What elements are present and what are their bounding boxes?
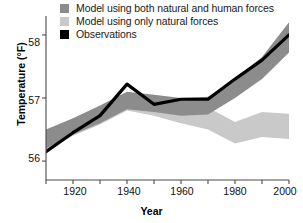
y-axis-label: Temperature (°F)	[15, 39, 27, 129]
legend-swatch-model-natural	[60, 17, 69, 26]
y-tick-label-56: 56	[14, 152, 40, 164]
legend-label-observations: Observations	[76, 29, 137, 40]
y-tick-label-57: 57	[14, 94, 40, 106]
x-tick-label-2000: 2000	[265, 185, 303, 197]
x-tick-label-1960: 1960	[162, 185, 202, 197]
x-tick-label-1980: 1980	[215, 185, 255, 197]
legend-item-model-both: Model using both natural and human force…	[60, 2, 300, 15]
legend-item-observations: Observations	[60, 28, 300, 41]
legend-label-model-natural: Model using only natural forces	[76, 16, 218, 27]
chart-legend: Model using both natural and human force…	[60, 2, 300, 41]
x-tick-label-1940: 1940	[109, 185, 149, 197]
legend-swatch-observations	[60, 30, 69, 39]
legend-item-model-natural: Model using only natural forces	[60, 15, 300, 28]
climate-temperature-chart: Model using both natural and human force…	[0, 0, 303, 223]
x-tick-label-1920: 1920	[55, 185, 95, 197]
legend-swatch-model-both	[60, 4, 69, 13]
legend-label-model-both: Model using both natural and human force…	[76, 3, 274, 14]
x-axis-label: Year	[0, 205, 303, 217]
y-tick-label-58: 58	[14, 36, 40, 48]
